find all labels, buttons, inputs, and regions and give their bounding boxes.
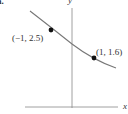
- part-label: a.: [0, 0, 4, 6]
- point-label-neg1-2.5: (−1, 2.5): [12, 34, 43, 43]
- graph-canvas: [0, 0, 128, 114]
- point-label-1-1.6: (1, 1.6): [96, 48, 122, 57]
- point-neg1-2.5: [49, 28, 54, 33]
- x-axis-label: x: [123, 102, 127, 111]
- y-axis-label: y: [68, 0, 72, 5]
